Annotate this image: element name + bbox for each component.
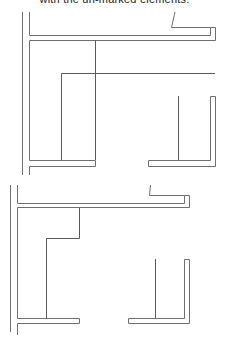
bottom-stepped-partition bbox=[47, 208, 80, 319]
top-left-inner-wall bbox=[30, 41, 96, 176]
bottom-right-l-wall bbox=[129, 260, 190, 324]
bottom-main-wall-lower bbox=[18, 196, 190, 208]
diagram-canvas bbox=[0, 0, 229, 341]
bottom-left-inner-wall bbox=[18, 208, 80, 336]
top-main-wall-upper bbox=[30, 12, 211, 36]
bottom-main-wall-upper bbox=[18, 185, 185, 204]
top-right-l-wall bbox=[149, 97, 216, 167]
bottom-diagram bbox=[11, 185, 190, 335]
top-diagram bbox=[23, 12, 216, 175]
top-main-wall-lower bbox=[30, 28, 216, 41]
top-horizontal-partition bbox=[62, 74, 216, 161]
